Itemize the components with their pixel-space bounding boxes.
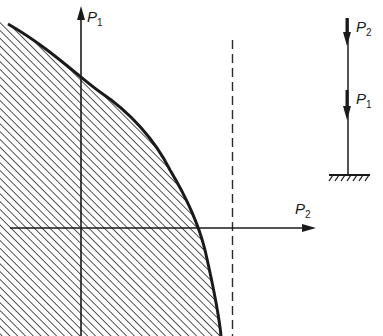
p1-load-arrow-icon [343, 106, 351, 120]
p2-load-arrow-icon [343, 32, 351, 46]
column-inset: P2 P1 [329, 18, 372, 181]
p2-axis-label: P2 [295, 200, 311, 220]
stability-diagram: P1 P2 P2 P1 [0, 0, 383, 336]
p1-axis-arrowhead-icon [77, 6, 85, 20]
p1-load-label: P1 [356, 90, 372, 110]
p2-load-label: P2 [356, 18, 372, 38]
p2-axis-arrowhead-icon [302, 224, 316, 232]
stable-region [0, 20, 221, 336]
p1-axis-label: P1 [87, 8, 103, 28]
